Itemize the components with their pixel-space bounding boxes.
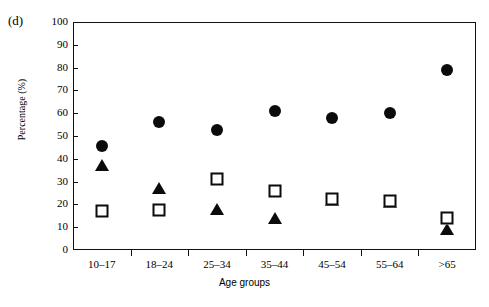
y-tick-label: 30 [28, 176, 68, 187]
data-point-circle [153, 116, 165, 128]
y-tick-label: 20 [28, 198, 68, 209]
data-point-triangle [95, 159, 109, 171]
y-tick-mark [73, 136, 78, 137]
y-tick-mark [73, 159, 78, 160]
data-point-circle [96, 140, 108, 152]
data-point-square [441, 212, 454, 225]
data-point-circle [269, 105, 281, 117]
x-tick-mark [361, 250, 362, 256]
y-tick-mark [73, 182, 78, 183]
data-point-square [268, 184, 281, 197]
y-tick-mark [73, 113, 78, 114]
x-tick-mark [131, 250, 132, 256]
y-axis-title: Percentage (%) [16, 65, 27, 155]
data-point-square [210, 173, 223, 186]
y-tick-mark [73, 204, 78, 205]
data-point-circle [441, 64, 453, 76]
data-point-triangle [268, 212, 282, 224]
y-tick-label: 60 [28, 107, 68, 118]
data-point-square [153, 204, 166, 217]
x-tick-mark [188, 250, 189, 256]
panel-label: (d) [8, 14, 23, 27]
y-tick-label: 70 [28, 84, 68, 95]
y-tick-label: 80 [28, 62, 68, 73]
x-tick-mark [246, 250, 247, 256]
x-tick-label: >65 [412, 259, 482, 270]
figure-panel-d: (d) Percentage (%) 010203040506070809010… [0, 0, 489, 307]
data-point-circle [211, 124, 223, 136]
y-tick-mark [73, 45, 78, 46]
y-tick-label: 100 [28, 16, 68, 27]
data-point-triangle [152, 182, 166, 194]
y-tick-label: 0 [28, 244, 68, 255]
data-point-triangle [440, 223, 454, 235]
x-tick-mark [303, 250, 304, 256]
y-tick-mark [73, 90, 78, 91]
data-point-square [326, 192, 339, 205]
y-tick-mark [73, 68, 78, 69]
data-point-square [95, 205, 108, 218]
y-tick-label: 90 [28, 39, 68, 50]
y-tick-label: 50 [28, 130, 68, 141]
y-tick-mark [73, 227, 78, 228]
data-point-triangle [210, 203, 224, 215]
data-point-square [383, 194, 396, 207]
data-point-circle [384, 107, 396, 119]
y-tick-label: 10 [28, 221, 68, 232]
x-axis-title: Age groups [0, 277, 489, 288]
x-tick-mark [418, 250, 419, 256]
y-tick-label: 40 [28, 153, 68, 164]
data-point-circle [326, 112, 338, 124]
